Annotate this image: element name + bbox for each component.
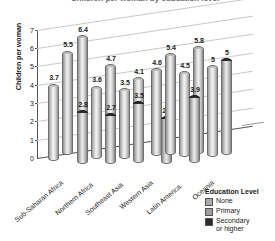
bar-latin-america-secondary [189, 95, 200, 163]
legend-item-secondary[interactable]: Secondary or higher [205, 217, 259, 233]
y-tick-6: 6 [22, 45, 34, 52]
value-label-5-4: 5.4 [166, 44, 176, 51]
bar-oceania-primary [207, 65, 218, 157]
bar-body [221, 61, 232, 155]
bar-northern-africa-primary [91, 86, 102, 159]
y-tick-2: 2 [22, 118, 34, 125]
value-label-3-5-a: 3.5 [120, 79, 130, 86]
bar-body [77, 113, 88, 164]
value-label-3-7: 3.7 [49, 74, 59, 81]
y-tick-4: 4 [22, 82, 34, 89]
y-tick-7: 7 [22, 27, 34, 34]
value-label-3-5-b: 3.5 [134, 92, 144, 99]
bar-oceania-secondary [221, 58, 232, 155]
bar-body [105, 116, 116, 164]
value-label-2-7: 2.7 [106, 104, 116, 111]
legend-label-none: None [216, 197, 233, 205]
value-label-3-9: 3.9 [190, 86, 200, 93]
y-tick-5: 5 [22, 63, 34, 70]
bar-body [91, 89, 102, 159]
bar-latin-america-none [165, 53, 176, 155]
legend-title: Education Level [205, 188, 259, 195]
gridline-7 [37, 0, 253, 31]
floor-right-edge [242, 122, 264, 126]
bar-body [119, 91, 130, 159]
legend: Education Level None Primary Secondary o… [205, 188, 259, 234]
x-label-northern-africa: Northern Africa [36, 181, 94, 231]
chart-container: Children per woman by education level Ch… [0, 0, 275, 241]
value-label-5-a: 5 [211, 56, 215, 63]
value-label-4-1: 4.1 [134, 68, 144, 75]
value-label-4-5: 4.5 [180, 62, 190, 69]
chart-title: Children per woman by education level [60, 0, 230, 4]
bar-northern-africa-secondary [105, 113, 116, 164]
y-tick-1: 1 [22, 137, 34, 144]
legend-swatch-none-icon [205, 198, 213, 206]
value-label-5-b: 5 [225, 49, 229, 56]
value-label-4-7: 4.7 [106, 55, 116, 62]
value-label-2-8: 2.8 [78, 101, 88, 108]
y-tick-3: 3 [22, 100, 34, 107]
bar-body [207, 68, 218, 157]
x-label-sub-saharan-africa: Sub-Saharan Africa [6, 179, 64, 229]
bar-sub-saharan-africa-secondary [77, 110, 88, 164]
legend-label-primary: Primary [216, 207, 240, 215]
y-axis-label: Children per woman [14, 7, 23, 107]
value-label-3-6: 3.6 [92, 76, 102, 83]
bar-southeast-asia-secondary [133, 101, 144, 163]
bar-sub-saharan-africa-primary [48, 84, 59, 161]
bar-body [189, 98, 200, 163]
legend-label-secondary-line2: or higher [216, 225, 244, 232]
value-label-5-8: 5.8 [194, 37, 204, 44]
x-label-latin-america: Latin America [124, 183, 182, 233]
value-label-4-6: 4.6 [152, 59, 162, 66]
legend-swatch-primary-icon [205, 208, 213, 216]
value-label-6-4: 6.4 [78, 26, 88, 33]
legend-label-secondary-line1: Secondary [216, 217, 249, 224]
y-tick-0: 0 [22, 155, 34, 162]
bar-body [165, 56, 176, 155]
bar-body [62, 54, 73, 155]
bar-southeast-asia-primary [119, 88, 130, 159]
bar-body [133, 104, 144, 163]
x-label-western-asia: Western Asia [96, 179, 154, 229]
bar-sub-saharan-africa-none [62, 51, 73, 155]
legend-swatch-secondary-icon [205, 218, 213, 226]
legend-label-secondary: Secondary or higher [216, 217, 249, 233]
value-label-5-5: 5.5 [63, 41, 73, 48]
legend-item-none[interactable]: None [205, 197, 259, 206]
bar-body [48, 87, 59, 161]
legend-item-primary[interactable]: Primary [205, 207, 259, 216]
